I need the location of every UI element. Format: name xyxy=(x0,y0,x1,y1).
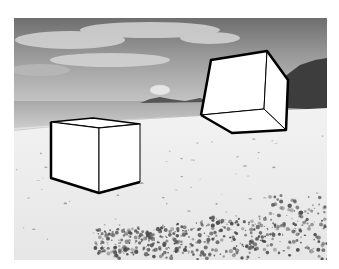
shrub-leaf xyxy=(94,241,97,244)
shrub-leaf xyxy=(286,227,290,231)
shrub-leaf xyxy=(120,239,123,242)
shrub-leaf xyxy=(141,238,143,240)
shrub-leaf xyxy=(279,200,283,204)
shrub-leaf xyxy=(159,255,163,259)
shrub-leaf xyxy=(121,229,125,233)
shrub-leaf xyxy=(117,256,121,260)
sand-speck xyxy=(187,210,191,212)
shrub-leaf xyxy=(208,253,211,256)
shrub-leaf xyxy=(148,254,150,256)
sand-speck xyxy=(23,227,25,229)
shrub-leaf xyxy=(206,238,210,242)
shrub-leaf xyxy=(300,215,304,219)
shrub-leaf xyxy=(165,256,167,258)
sand-speck xyxy=(47,239,48,240)
shrub-leaf xyxy=(160,226,163,229)
shrub-leaf xyxy=(250,220,254,224)
shrub-leaf xyxy=(313,239,315,241)
sand-speck xyxy=(140,182,143,184)
shrub-leaf xyxy=(134,236,138,240)
shrub-leaf xyxy=(188,253,189,254)
shrub-leaf xyxy=(302,224,304,226)
shrub-leaf xyxy=(296,239,299,242)
shrub-leaf xyxy=(200,228,202,230)
shrub-leaf xyxy=(156,248,158,250)
shrub-leaf xyxy=(288,242,290,244)
shrub-leaf xyxy=(268,195,272,199)
shrub-leaf xyxy=(104,230,106,232)
shrub-leaf xyxy=(250,245,252,247)
shrub-leaf xyxy=(323,211,325,213)
shrub-leaf xyxy=(138,238,140,240)
shrub-leaf xyxy=(253,242,257,246)
shrub-leaf xyxy=(246,259,248,261)
sand-speck xyxy=(291,218,293,220)
sand-speck xyxy=(243,165,247,167)
sand-speck xyxy=(293,228,296,229)
shrub-leaf xyxy=(138,228,140,230)
shrub-leaf xyxy=(267,229,269,231)
shrub-leaf xyxy=(269,233,271,235)
shrub-leaf xyxy=(134,229,137,232)
shrub-leaf xyxy=(280,194,283,197)
sand-speck xyxy=(115,219,117,220)
sand-speck xyxy=(180,158,183,160)
shrub-leaf xyxy=(235,215,237,217)
shrub-leaf xyxy=(109,229,111,231)
shrub-leaf xyxy=(299,228,302,231)
shrub-leaf xyxy=(102,238,103,239)
sand-speck xyxy=(42,177,43,179)
shrub-leaf xyxy=(116,229,118,231)
sand-speck xyxy=(228,222,232,223)
shrub-leaf xyxy=(266,251,270,255)
shrub-leaf xyxy=(276,198,279,201)
shrub-leaf xyxy=(135,246,138,249)
shrub-leaf xyxy=(219,229,223,233)
sand-speck xyxy=(235,221,236,222)
shrub-leaf xyxy=(200,253,203,256)
shrub-leaf xyxy=(236,245,238,247)
shrub-leaf xyxy=(178,246,181,249)
shrub-leaf xyxy=(308,208,311,211)
shrub-leaf xyxy=(128,230,131,233)
shrub-leaf xyxy=(310,223,314,227)
shrub-leaf xyxy=(211,226,215,230)
shrub-leaf xyxy=(182,230,184,232)
shrub-leaf xyxy=(176,234,180,238)
shrub-leaf xyxy=(122,245,126,249)
shrub-leaf xyxy=(274,224,277,227)
shrub-leaf xyxy=(102,245,103,246)
sand-speck xyxy=(226,224,229,226)
shrub-leaf xyxy=(263,248,267,252)
shrub-leaf xyxy=(158,241,160,243)
shrub-leaf xyxy=(207,224,210,227)
shrub-leaf xyxy=(211,219,213,221)
shrub-leaf xyxy=(304,210,307,213)
sand-speck xyxy=(216,203,218,205)
shrub-leaf xyxy=(232,253,236,257)
shrub-leaf xyxy=(323,205,326,208)
shrub-leaf xyxy=(317,240,320,243)
shrub-leaf xyxy=(230,229,231,230)
sand-speck xyxy=(44,167,47,168)
shrub-leaf xyxy=(321,257,324,260)
shrub-leaf xyxy=(235,248,239,252)
sand-speck xyxy=(191,159,193,161)
shrub-leaf xyxy=(103,247,104,248)
shrub-leaf xyxy=(314,221,315,222)
shrub-leaf xyxy=(164,228,168,232)
shrub-leaf xyxy=(130,252,131,253)
shrub-leaf xyxy=(131,228,134,231)
shrub-leaf xyxy=(191,250,194,253)
shrub-leaf xyxy=(226,227,230,231)
shrub-leaf xyxy=(309,249,313,253)
shrub-leaf xyxy=(143,247,146,250)
shrub-leaf xyxy=(107,247,110,250)
shrub-leaf xyxy=(101,232,104,235)
shrub-leaf xyxy=(278,233,281,236)
shrub-leaf xyxy=(281,206,285,210)
shrub-leaf xyxy=(174,243,176,245)
shrub-leaf xyxy=(130,235,132,237)
shrub-leaf xyxy=(235,232,238,235)
sand-speck xyxy=(258,158,259,159)
